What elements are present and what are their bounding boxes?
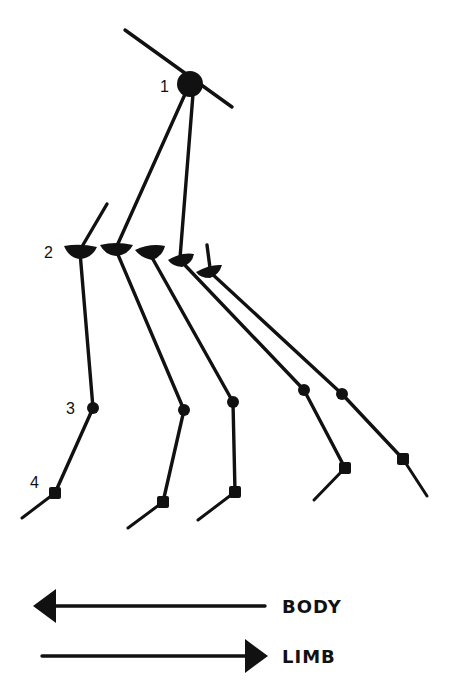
limb-a xyxy=(22,204,107,518)
right-arrow-icon xyxy=(245,639,268,673)
left-arrow-icon xyxy=(33,589,56,623)
pelvis-line xyxy=(125,30,232,107)
limb-e xyxy=(196,245,427,496)
joint-label-2: 2 xyxy=(44,244,53,261)
legend-limb: LIMB xyxy=(42,639,336,673)
joint-label-3: 3 xyxy=(66,400,75,417)
legend-body-label: BODY xyxy=(282,596,342,617)
joint-label-1: 1 xyxy=(160,78,169,95)
hip-joint xyxy=(177,71,203,97)
limb-diagram: 1 2 3 4 xyxy=(0,0,462,688)
legend-limb-label: LIMB xyxy=(282,646,336,667)
joint-label-4: 4 xyxy=(30,474,39,491)
thigh-d xyxy=(180,94,193,258)
limb-b xyxy=(100,243,190,528)
thigh-b xyxy=(116,92,186,248)
legend-body: BODY xyxy=(33,589,342,623)
